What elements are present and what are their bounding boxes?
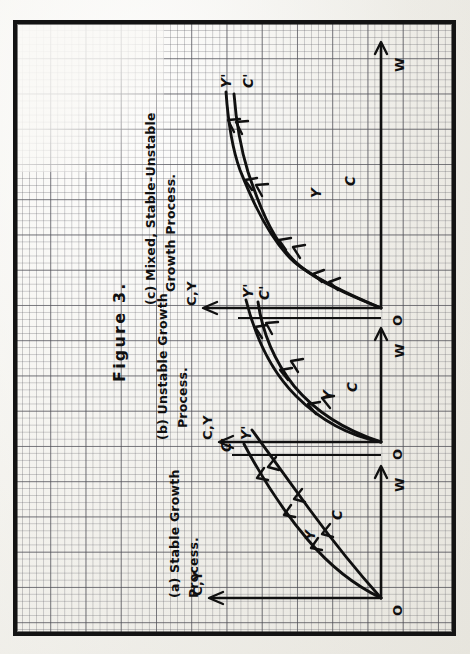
panel-a-caption-line1: (a) Stable Growth [167,469,182,598]
panel-c-caption-line1: (c) Mixed, Stable-Unstable [143,112,158,305]
panel-b-curve-end-label-y: Y' [240,283,256,298]
panel-a-x-axis-label: W [392,477,407,492]
panel-b-caption-line2: Process. [175,367,190,428]
figure-scan-page: .ax{stroke:#101010;stroke-width:2.6;fill… [0,0,470,654]
panel-c-origin-label: O [390,315,405,326]
panel-b-origin-label: O [390,449,405,460]
panel-a-y-axis-label: C,Y [190,571,205,596]
panel-c-curve-label-y: Y [308,188,324,198]
panel-b-curve-label-y: Y [320,390,336,400]
panel-a-curve-end-label-c: C' [218,437,234,452]
panel-c-x-axis-label: W [392,57,407,72]
panel-b-curve-label-c: C [344,382,360,392]
panel-a-curve-end-label-y: Y' [238,425,254,440]
panel-b-y-axis-label: C,Y [200,415,215,440]
figure-title: Figure 3. [110,281,129,382]
panel-c-curve-end-label-c: C' [240,73,256,88]
panel-c-curve-end-label-y: Y' [218,73,234,88]
panel-b-x-axis-label: W [392,343,407,358]
diagram-ink-layer: .ax{stroke:#101010;stroke-width:2.6;fill… [0,0,470,654]
panel-c-caption-line2: Growth Process. [163,174,178,292]
panel-a-curve-label-y: Y [302,530,318,540]
panel-a-curve-label-c: C [329,510,345,520]
panel-c-y-axis-label: C,Y [184,281,199,306]
panel-b-caption-line1: (b) Unstable Growth [155,293,170,440]
panel-b-curve-end-label-c: C' [256,285,272,300]
panel-c-curve-label-c: C [342,176,358,186]
panel-a-origin-label: O [390,605,405,616]
